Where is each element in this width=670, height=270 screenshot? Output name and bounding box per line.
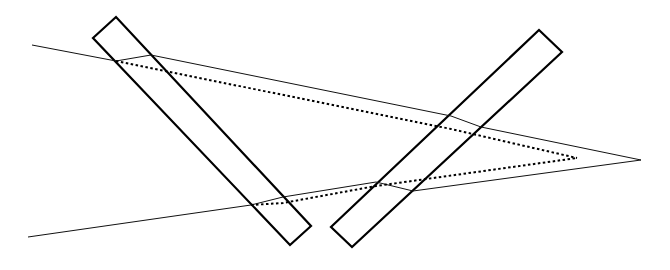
apparent-upper-path: [116, 61, 577, 158]
right-glass-slab: [331, 30, 562, 247]
refraction-diagram: [0, 0, 670, 270]
lower-light-ray: [28, 160, 641, 237]
apparent-lower-path: [251, 158, 577, 205]
left-glass-slab: [93, 17, 311, 245]
